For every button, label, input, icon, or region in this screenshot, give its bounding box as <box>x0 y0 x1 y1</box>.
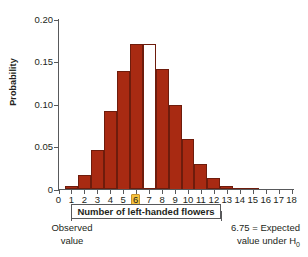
bar <box>182 139 195 190</box>
bar <box>207 178 220 189</box>
y-axis-tick-label: 0.15 <box>7 56 53 67</box>
bar <box>169 105 182 190</box>
bar <box>143 44 156 189</box>
bar <box>156 69 169 190</box>
bar <box>78 175 91 189</box>
bar <box>194 164 207 190</box>
observed-value-line1: Observed <box>38 221 106 234</box>
y-axis-tick <box>54 20 59 21</box>
probability-distribution-chart: Probability 00.050.100.150.20 0123456789… <box>0 0 308 257</box>
x-axis-title: Number of left-handed flowers <box>77 206 214 217</box>
expected-value-line1: 6.75 = Expected <box>180 221 300 234</box>
y-axis-tick <box>54 62 59 63</box>
y-axis-tick <box>54 105 59 106</box>
y-axis-tick-label: 0 <box>7 184 53 195</box>
bar <box>130 44 143 189</box>
bar <box>117 71 130 190</box>
y-axis-tick-label: 0.20 <box>7 14 53 25</box>
x-axis-tick-label: 18 <box>283 194 301 205</box>
y-axis-tick <box>54 147 59 148</box>
observed-value-line2: value <box>38 234 106 247</box>
leader-line-observed-lower <box>71 211 72 221</box>
bar <box>91 150 104 189</box>
expected-value-subscript: 0 <box>296 241 300 248</box>
expected-value-line2: value under H0 <box>180 234 300 251</box>
y-axis-tick-label: 0.10 <box>7 99 53 110</box>
bar <box>104 111 117 189</box>
expected-value-line2-text: value under H <box>237 235 296 246</box>
leader-line-expected-lower <box>221 211 222 221</box>
y-axis-label: Probability <box>8 42 18 122</box>
expected-value-note: 6.75 = Expected value under H0 <box>180 221 300 251</box>
y-axis-tick-label: 0.05 <box>7 141 53 152</box>
x-axis-title-box: Number of left-handed flowers <box>71 204 221 219</box>
observed-value-note: Observed value <box>38 221 106 247</box>
